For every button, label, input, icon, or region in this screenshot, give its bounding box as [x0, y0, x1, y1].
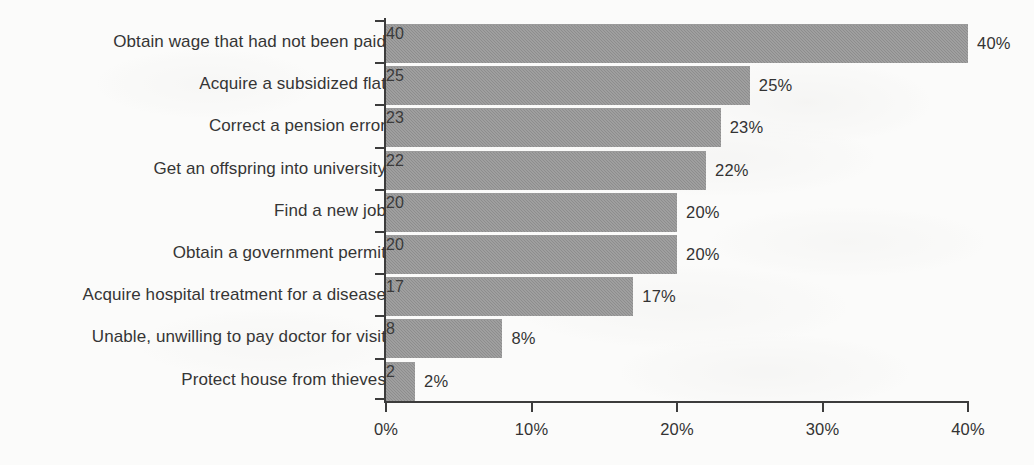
category-label: Acquire a subsidized flat [14, 75, 386, 94]
category-label: Obtain a government permit [14, 244, 386, 263]
x-axis-tick-label: 10% [515, 420, 549, 439]
category-label: Correct a pension error [14, 117, 386, 136]
y-axis-tick [375, 273, 386, 275]
bar-value-label: 25% [759, 76, 793, 95]
x-axis-tick-label: 20% [660, 420, 694, 439]
plot-area: 40Obtain wage that had not been paid40%2… [0, 0, 1034, 465]
x-axis-tick [531, 401, 533, 412]
bar-value-label: 17% [642, 287, 676, 306]
x-axis-tick-label: 0% [374, 420, 398, 439]
bar: 22 [386, 151, 706, 190]
bar-value-label: 40% [977, 34, 1011, 53]
x-axis-tick [822, 401, 824, 412]
category-label: Acquire hospital treatment for a disease [14, 286, 386, 305]
bar-chart: 40Obtain wage that had not been paid40%2… [0, 0, 1034, 465]
y-axis-tick [375, 189, 386, 191]
category-label: Protect house from thieves [14, 371, 386, 390]
bar: 20 [386, 193, 677, 232]
y-axis-tick [375, 398, 386, 400]
bar: 23 [386, 108, 721, 147]
category-label: Get an offspring into university [14, 160, 386, 179]
x-axis-tick-label: 40% [951, 420, 985, 439]
y-axis-tick [375, 358, 386, 360]
bar: 2 [386, 362, 415, 401]
bar: 17 [386, 277, 633, 316]
category-label: Unable, unwilling to pay doctor for visi… [14, 328, 386, 347]
bar: 8 [386, 319, 502, 358]
x-axis-tick-label: 30% [806, 420, 840, 439]
bar-value-label: 2% [424, 372, 448, 391]
bar-value-label: 23% [730, 118, 764, 137]
category-label: Obtain wage that had not been paid [14, 33, 386, 52]
bar-value-label: 20% [686, 245, 720, 264]
y-axis-tick [375, 147, 386, 149]
x-axis-tick [967, 401, 969, 412]
bar-value-label: 22% [715, 161, 749, 180]
bar: 25 [386, 66, 750, 105]
y-axis-tick [375, 315, 386, 317]
y-axis-tick [375, 62, 386, 64]
bar-value-label: 20% [686, 203, 720, 222]
x-axis-tick [676, 401, 678, 412]
bar-value-label: 8% [511, 329, 535, 348]
y-axis-tick [375, 20, 386, 22]
category-label: Find a new job [14, 202, 386, 221]
y-axis-tick [375, 104, 386, 106]
x-axis-tick [385, 401, 387, 412]
bar: 20 [386, 235, 677, 274]
bar: 40 [386, 24, 968, 63]
y-axis-tick [375, 231, 386, 233]
